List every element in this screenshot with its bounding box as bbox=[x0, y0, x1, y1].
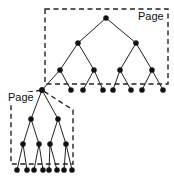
page-label: Page bbox=[138, 10, 164, 22]
tree-node-u11 bbox=[110, 87, 115, 92]
tree-edge bbox=[58, 119, 66, 144]
tree-node-l1 bbox=[28, 116, 33, 121]
tree-edge bbox=[50, 144, 57, 170]
tree-node-u12 bbox=[128, 87, 133, 92]
tree-edge bbox=[60, 43, 78, 70]
tree-edge bbox=[39, 144, 43, 170]
tree-edge bbox=[17, 144, 23, 170]
diagram-canvas: PagePage bbox=[0, 0, 174, 185]
tree-node-l13 bbox=[61, 167, 66, 172]
page-label: Page bbox=[8, 91, 34, 103]
tree-node-u10 bbox=[100, 87, 105, 92]
tree-node-u14 bbox=[160, 87, 165, 92]
tree-edge bbox=[106, 18, 136, 43]
tree-node-l4 bbox=[36, 141, 41, 146]
tree-edge bbox=[34, 144, 39, 170]
tree-node-l6 bbox=[63, 141, 68, 146]
tree-node-l0 bbox=[39, 87, 44, 92]
tree-node-u8 bbox=[68, 87, 73, 92]
tree-edge bbox=[120, 70, 131, 90]
tree-edge bbox=[42, 90, 58, 119]
tree-edge bbox=[60, 70, 71, 90]
tree-edge bbox=[78, 43, 94, 70]
tree-node-u5 bbox=[117, 67, 122, 72]
tree-edge bbox=[120, 43, 136, 70]
tree-edge bbox=[50, 119, 58, 144]
tree-edge bbox=[113, 70, 120, 90]
tree-edge bbox=[83, 70, 94, 90]
tree-node-u9 bbox=[80, 87, 85, 92]
tree-node-l7 bbox=[14, 167, 19, 172]
tree-edge bbox=[142, 70, 152, 90]
tree-edge bbox=[49, 144, 50, 170]
tree-node-l10 bbox=[40, 167, 45, 172]
nodes-layer bbox=[14, 15, 165, 172]
tree-edge bbox=[78, 18, 106, 43]
tree-edge bbox=[66, 144, 72, 170]
tree-edge bbox=[23, 144, 27, 170]
tree-edge bbox=[136, 43, 152, 70]
tree-node-l8 bbox=[24, 167, 29, 172]
edges-layer bbox=[17, 18, 163, 170]
tree-node-l9 bbox=[31, 167, 36, 172]
tree-node-l2 bbox=[55, 116, 60, 121]
tree-node-l11 bbox=[46, 167, 51, 172]
tree-node-l3 bbox=[20, 141, 25, 146]
tree-node-u3 bbox=[57, 67, 62, 72]
tree-node-l14 bbox=[69, 167, 74, 172]
tree-node-u6 bbox=[149, 67, 154, 72]
tree-edge bbox=[23, 119, 31, 144]
tree-node-u2 bbox=[133, 40, 138, 45]
tree-node-l5 bbox=[47, 141, 52, 146]
tree-edge bbox=[31, 119, 39, 144]
tree-node-u4 bbox=[91, 67, 96, 72]
tree-edge bbox=[152, 70, 163, 90]
tree-edge bbox=[64, 144, 66, 170]
tree-paging-diagram: PagePage bbox=[0, 0, 174, 185]
tree-node-l12 bbox=[54, 167, 59, 172]
tree-node-u13 bbox=[139, 87, 144, 92]
tree-edge bbox=[94, 70, 103, 90]
tree-node-u1 bbox=[75, 40, 80, 45]
tree-node-u0 bbox=[103, 15, 108, 20]
